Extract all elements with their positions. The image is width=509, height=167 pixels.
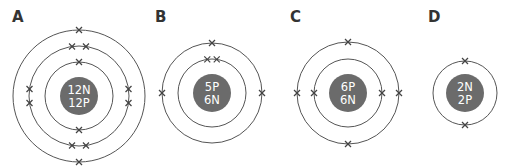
nucleus-text: 6N [204,93,220,107]
atom-d: D2N2P [428,8,497,128]
atom-a: A12N12P [12,8,145,165]
nucleus-text: 2P [458,93,472,107]
nucleus-text: 2N [457,80,473,94]
nucleus-text: 12N [67,83,90,97]
atom-c: C6P6N [290,8,402,147]
nucleus-text: 6P [341,80,355,94]
nucleus-text: 5P [205,80,219,94]
nucleus-text: 12P [68,96,90,110]
atom-label: C [290,8,301,26]
atom-b: B5P6N [155,8,265,143]
atom-label: A [12,8,24,26]
atom-diagrams: A12N12PB5P6NC6P6ND2N2P [0,0,509,167]
atom-label: B [155,8,166,26]
atom-label: D [428,8,440,26]
nucleus-text: 6N [340,93,356,107]
